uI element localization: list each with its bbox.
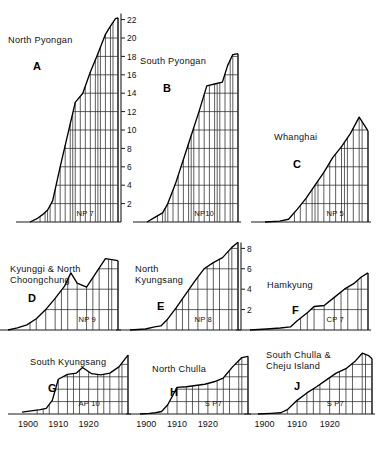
panel-title: South Pyongan <box>140 56 206 66</box>
panel-a: 246810121416182022North PyonganANP 7 <box>8 14 137 222</box>
x-tick-label: 1910 <box>48 419 68 429</box>
panel-title: South Chulla & <box>266 350 331 360</box>
y-tick-label: 8 <box>127 144 132 154</box>
source-label: NP 9 <box>78 315 96 324</box>
x-tick-label: 1900 <box>136 419 156 429</box>
y-tick-label: 20 <box>127 33 137 43</box>
source-label: NP 7 <box>76 209 94 218</box>
x-tick-label: 1920 <box>198 419 218 429</box>
panel-g: South KyungsangGAP 10190019101920 <box>8 355 131 429</box>
panel-h: North ChullaHS P7190019101920 <box>126 356 251 429</box>
source-label: NP10 <box>194 209 214 218</box>
panel-e: 2468NorthKyungsangENP 8 <box>116 242 252 330</box>
data-curve <box>130 242 238 330</box>
data-curve <box>30 18 118 222</box>
y-tick-label: 6 <box>247 264 252 274</box>
panel-letter: C <box>293 158 301 170</box>
source-label: S P7 <box>205 399 222 408</box>
y-tick-label: 4 <box>247 284 252 294</box>
y-tick-label: 22 <box>127 15 137 25</box>
y-tick-label: 2 <box>127 199 132 209</box>
panel-letter: H <box>170 386 178 398</box>
source-label: NP 8 <box>194 315 212 324</box>
multi-panel-line-chart: 246810121416182022North PyonganANP 7Sout… <box>0 0 377 449</box>
y-tick-label: 6 <box>127 162 132 172</box>
panel-letter: B <box>163 82 171 94</box>
source-label: NP 5 <box>326 209 344 218</box>
y-tick-label: 14 <box>127 88 137 98</box>
figure-root: 246810121416182022North PyonganANP 7Sout… <box>0 0 377 449</box>
y-tick-label: 2 <box>247 305 252 315</box>
panel-f: HamkyungFCP 7 <box>236 273 371 330</box>
source-label: AP 10 <box>78 399 100 408</box>
panel-title: North Pyongan <box>8 35 73 45</box>
x-tick-label: 1920 <box>320 419 340 429</box>
x-tick-label: 1920 <box>79 419 99 429</box>
panel-letter: J <box>294 380 300 392</box>
y-tick-label: 8 <box>247 244 252 254</box>
panel-j: South Chulla &Cheju IslandJS P7190019101… <box>244 350 375 429</box>
panel-title: Cheju Island <box>266 361 320 371</box>
panel-letter: E <box>157 300 164 312</box>
panel-title: North <box>135 264 159 274</box>
panel-title: Choongchung <box>10 275 70 285</box>
panel-letter: G <box>48 382 57 394</box>
panel-letter: A <box>33 60 41 72</box>
panel-title: South Kyungsang <box>30 357 106 367</box>
x-tick-label: 1900 <box>18 419 38 429</box>
source-label: CP 7 <box>326 315 344 324</box>
panel-letter: F <box>292 304 299 316</box>
y-tick-label: 12 <box>127 107 137 117</box>
panel-b: South PyonganBNP10 <box>133 54 241 222</box>
panel-c: WhanghaiCNP 5 <box>251 117 371 222</box>
x-tick-label: 1910 <box>287 419 307 429</box>
panel-title: Hamkyung <box>267 280 313 290</box>
panel-title: Kyungsang <box>135 275 183 285</box>
source-label: S P7 <box>327 399 344 408</box>
panel-title: Whanghai <box>274 132 317 142</box>
panel-d: Kyunggi & NorthChoongchungDNP 9 <box>0 259 121 330</box>
panel-title: North Chulla <box>152 364 207 374</box>
y-tick-label: 4 <box>127 180 132 190</box>
y-tick-label: 18 <box>127 52 137 62</box>
panel-title: Kyunggi & North <box>10 264 81 274</box>
data-curve <box>147 54 238 222</box>
panel-letter: D <box>28 292 36 304</box>
y-tick-label: 10 <box>127 125 137 135</box>
x-tick-label: 1910 <box>167 419 187 429</box>
x-tick-label: 1900 <box>254 419 274 429</box>
y-tick-label: 16 <box>127 70 137 80</box>
